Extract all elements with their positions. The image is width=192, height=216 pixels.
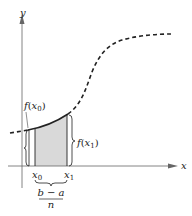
x-axis-arrow-icon xyxy=(168,164,178,169)
x1-label: x1 xyxy=(64,169,74,182)
curve-left-dashed xyxy=(10,130,28,133)
f-x1-brace xyxy=(69,115,75,166)
x-axis-label: x xyxy=(181,160,187,171)
curve-right-dashed xyxy=(68,34,172,114)
y-axis-label: y xyxy=(19,7,26,18)
fraction-numerator: b − a xyxy=(37,187,64,198)
f-x0-label: f(x0) xyxy=(23,100,46,113)
f-x1-label: f(x1) xyxy=(76,137,99,150)
riemann-diagram: y x f(x0) f(x1) x0 x1 b − a n xyxy=(0,0,192,216)
f-x0-brace xyxy=(24,130,29,166)
f-x0-leader xyxy=(26,112,28,128)
x0-label: x0 xyxy=(32,169,42,182)
fraction-denominator: n xyxy=(48,199,54,210)
